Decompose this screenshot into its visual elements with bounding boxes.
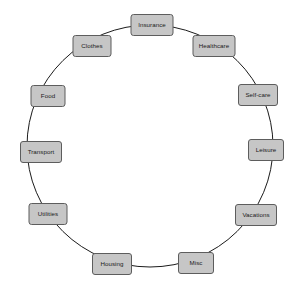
cycle-node-insurance[interactable]: Insurance: [131, 14, 174, 36]
cycle-node-healthcare[interactable]: Healthcare: [193, 35, 236, 57]
cycle-node-utilities[interactable]: Utilities: [29, 203, 68, 225]
cycle-node-transport[interactable]: Transport: [20, 141, 62, 163]
cycle-node-label: Housing: [100, 261, 123, 267]
cycle-node-housing[interactable]: Housing: [92, 253, 132, 275]
cycle-node-vacations[interactable]: Vacations: [235, 204, 277, 226]
cycle-node-label: Vacations: [242, 212, 269, 218]
cycle-node-label: Misc: [190, 260, 203, 266]
cycle-node-label: Transport: [28, 149, 55, 155]
ring-ellipse: [27, 25, 273, 267]
cycle-node-clothes[interactable]: Clothes: [73, 35, 112, 57]
cycle-node-label: Utilities: [38, 211, 58, 217]
cycle-node-label: Insurance: [138, 22, 166, 28]
cycle-node-food[interactable]: Food: [31, 85, 66, 107]
cycle-node-label: Self-care: [245, 92, 270, 98]
cycle-node-self-care[interactable]: Self-care: [238, 84, 278, 106]
cycle-node-leisure[interactable]: Leisure: [248, 139, 284, 161]
cycle-node-label: Clothes: [81, 43, 102, 49]
cycle-node-misc[interactable]: Misc: [178, 252, 214, 274]
cycle-diagram: InsuranceHealthcareSelf-careLeisureVacat…: [0, 0, 303, 290]
cycle-node-label: Healthcare: [199, 43, 229, 49]
cycle-node-label: Food: [41, 93, 55, 99]
cycle-node-label: Leisure: [256, 147, 277, 153]
